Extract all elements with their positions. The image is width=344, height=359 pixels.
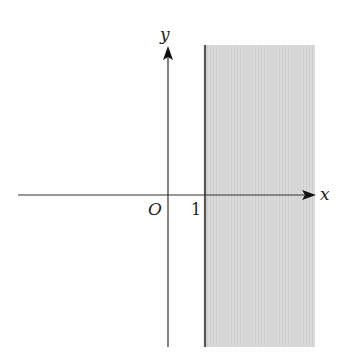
x-tick-label-1: 1: [191, 200, 201, 219]
x-axis-label: x: [320, 184, 330, 204]
shaded-region: [204, 45, 315, 347]
origin-label: O: [148, 199, 162, 219]
y-axis-label: y: [159, 24, 170, 44]
coordinate-plane: y x O 1: [0, 0, 344, 359]
